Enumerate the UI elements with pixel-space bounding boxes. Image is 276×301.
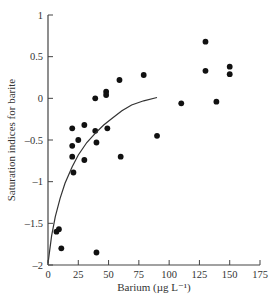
data-point <box>69 143 75 149</box>
y-tick-label: 1 <box>38 10 43 21</box>
data-point <box>213 99 219 105</box>
y-axis-title: Saturation indices for barite <box>5 79 17 202</box>
axes: 10.50–0.5–1–1.5–20255075100125150175 <box>24 10 268 281</box>
data-point <box>203 68 209 74</box>
y-tick-label: 0 <box>38 93 43 104</box>
data-point <box>141 72 147 78</box>
data-point <box>69 154 75 160</box>
x-tick-label: 75 <box>134 269 145 280</box>
data-point <box>75 137 81 143</box>
x-tick-label: 100 <box>161 269 177 280</box>
x-tick-label: 150 <box>222 269 238 280</box>
y-tick-label: –1.5 <box>24 218 43 229</box>
data-point <box>117 77 123 83</box>
x-axis-title: Barium (µg L⁻¹) <box>117 281 191 294</box>
y-tick-label: –1 <box>32 176 44 187</box>
scatter-chart: 10.50–0.5–1–1.5–20255075100125150175 Bar… <box>0 0 276 301</box>
fitted-curve <box>48 98 157 264</box>
data-point <box>227 71 233 77</box>
y-tick-label: –2 <box>32 260 44 271</box>
data-point <box>94 250 100 256</box>
data-point <box>81 122 87 128</box>
x-tick-label: 175 <box>252 269 268 280</box>
x-tick-label: 50 <box>103 269 114 280</box>
data-point <box>56 226 62 232</box>
data-point <box>71 170 77 176</box>
x-tick-label: 0 <box>45 269 50 280</box>
data-point <box>58 245 64 251</box>
data-point <box>81 157 87 163</box>
data-point <box>178 100 184 106</box>
x-tick-label: 125 <box>192 269 208 280</box>
y-tick-label: 0.5 <box>30 51 43 62</box>
data-point <box>94 140 100 146</box>
data-point <box>227 64 233 70</box>
data-point <box>203 39 209 45</box>
data-point <box>92 95 98 101</box>
data-point <box>154 133 160 139</box>
data-point <box>103 92 109 98</box>
plot-area <box>48 39 233 264</box>
data-point <box>69 125 75 131</box>
data-point <box>104 125 110 131</box>
y-tick-label: –0.5 <box>24 135 43 146</box>
data-point <box>118 154 124 160</box>
x-tick-label: 25 <box>73 269 84 280</box>
